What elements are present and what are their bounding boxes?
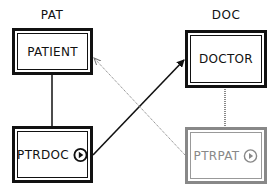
edge-ptrdoc-doctor-arrow	[93, 60, 184, 155]
play-circle-icon[interactable]	[73, 147, 88, 162]
node-label: PATIENT	[15, 45, 90, 59]
node-doctor-label: DOCTOR	[199, 52, 253, 66]
node-ptrpat-label: PTRPAT	[194, 149, 240, 163]
edge-ptrpat-patient-arrow	[94, 58, 185, 155]
node-patient[interactable]: PATIENT	[12, 28, 93, 75]
diagram-canvas: PAT DOC PATIENT DOCTOR PTRDOC PTRPAT	[0, 0, 278, 196]
group-label-pat: PAT	[22, 8, 82, 22]
node-ptrdoc[interactable]: PTRDOC	[12, 126, 93, 183]
play-circle-icon[interactable]	[243, 148, 258, 163]
node-ptrdoc-label: PTRDOC	[17, 148, 69, 162]
node-label: PTRPAT	[188, 148, 264, 163]
node-patient-label: PATIENT	[27, 45, 78, 59]
node-ptrpat[interactable]: PTRPAT	[185, 127, 267, 184]
node-doctor[interactable]: DOCTOR	[185, 30, 267, 88]
node-label: DOCTOR	[188, 52, 264, 66]
group-label-doc: DOC	[196, 8, 256, 22]
node-label: PTRDOC	[15, 147, 90, 162]
